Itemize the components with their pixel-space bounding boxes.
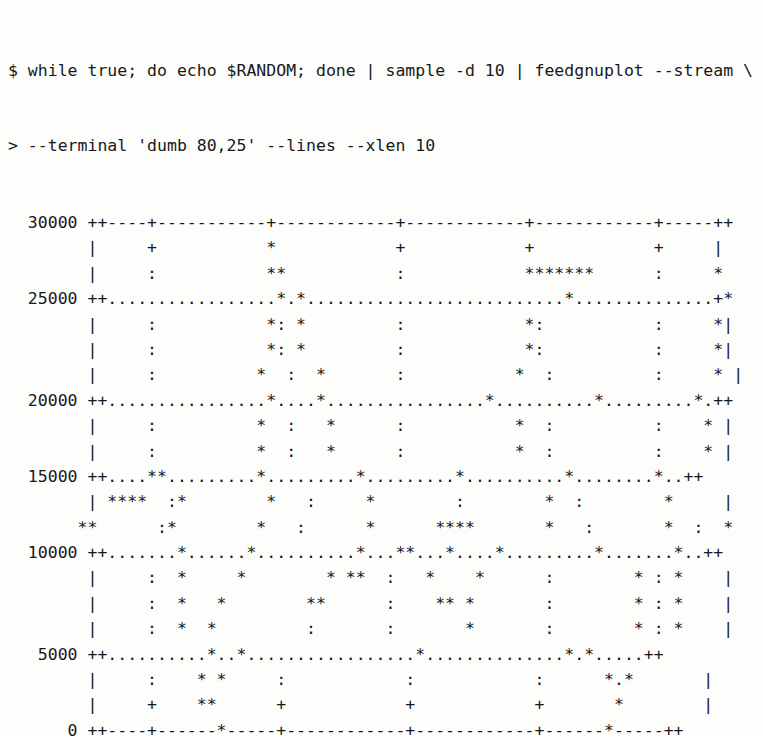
plot-row: | : *: * : *: : *|	[8, 337, 763, 362]
plot-row: ** :* * : * **** * : * : *	[8, 515, 763, 540]
plot-row: 0 ++----+------*-----+------------+-----…	[8, 718, 763, 740]
plot-row: | : * * ** : ** * : * : * |	[8, 591, 763, 616]
plot-row: 5000 ++..........*..*.................*.…	[8, 642, 763, 667]
plot-row: 20000 ++................*....*..........…	[8, 388, 763, 413]
plot-row: | : * : * : * : : * |	[8, 362, 763, 387]
plot-row: | : * * : : * : * : * |	[8, 616, 763, 641]
plot-row: 10000 ++.......*......*..........*...**.…	[8, 540, 763, 565]
ascii-plot: 30000 ++----+-----------+------------+--…	[0, 208, 763, 740]
plot-row: 30000 ++----+-----------+------------+--…	[8, 210, 763, 235]
plot-row: 15000 ++....**.........*.........*......…	[8, 464, 763, 489]
plot-row: | **** :* * : * : * : * |	[8, 489, 763, 514]
plot-row: | : * : * : * : : * |	[8, 413, 763, 438]
plot-row: | : * * : : : *.* |	[8, 667, 763, 692]
command-line-2: > --terminal 'dumb 80,25' --lines --xlen…	[8, 133, 763, 158]
plot-row: | : * : * : * : : * |	[8, 439, 763, 464]
command-line-1: $ while true; do echo $RANDOM; done | sa…	[8, 58, 763, 83]
plot-row: | + ** + + + * |	[8, 692, 763, 717]
plot-row: | + * + + + |	[8, 235, 763, 260]
command-block: $ while true; do echo $RANDOM; done | sa…	[0, 0, 763, 208]
plot-row: | : ** : ******* : *	[8, 261, 763, 286]
plot-row: | : *: * : *: : *|	[8, 312, 763, 337]
plot-row: 25000 ++.................*.*............…	[8, 286, 763, 311]
plot-row: | : * * * ** : * * : * : * |	[8, 565, 763, 590]
